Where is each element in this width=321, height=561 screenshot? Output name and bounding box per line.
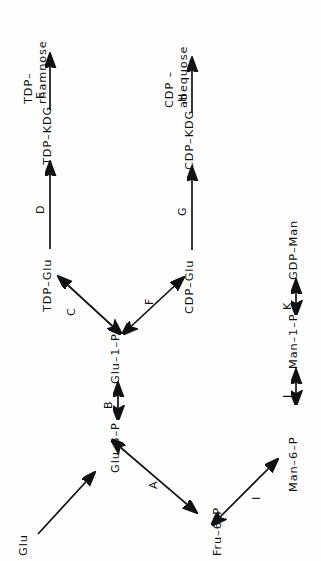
node-tdp-rhamnose-line1: TDP– bbox=[22, 72, 35, 104]
arrow-glu1p-to-tdpglu bbox=[59, 277, 120, 333]
node-cdp-kdg: CDP–KDG bbox=[184, 110, 195, 170]
node-man-6-p: Man–6–P bbox=[288, 437, 299, 492]
node-tdp-rhamnose: TDP– rhamnose bbox=[22, 12, 51, 104]
node-tdp-kdg: TDP–KDG bbox=[42, 106, 53, 165]
edge-label-c: C bbox=[65, 308, 78, 316]
edge-label-e: E bbox=[34, 92, 47, 99]
node-tdp-glu: TDP–Glu bbox=[42, 259, 53, 312]
node-cdp-glu: CDP–Glu bbox=[184, 260, 195, 314]
node-glu-1-p: Glu–1–P bbox=[110, 333, 121, 384]
edge-label-h: H bbox=[176, 93, 189, 102]
edge-label-d: D bbox=[34, 205, 47, 214]
node-glu: Glu bbox=[18, 534, 29, 556]
arrow-glu1p-to-cdpglu bbox=[124, 278, 183, 333]
node-man-1-p: Man–1–P bbox=[288, 314, 299, 369]
edge-label-b: B bbox=[102, 401, 115, 409]
node-fru-6-p: Fru–6–P bbox=[212, 507, 223, 556]
edge-label-g: G bbox=[176, 207, 189, 216]
pathway-diagram-canvas: Glu Glu–6–P Glu–1–P TDP–Glu TDP–KDG TDP–… bbox=[0, 0, 321, 561]
edge-label-k: K bbox=[281, 302, 294, 310]
edge-label-a: A bbox=[147, 481, 160, 489]
node-gdp-man: GDP–Man bbox=[288, 220, 299, 280]
edge-label-j: J bbox=[281, 394, 294, 398]
arrow-glu-to-glu6p bbox=[38, 473, 94, 534]
edge-label-i: I bbox=[250, 496, 263, 500]
node-glu-6-p: Glu–6–P bbox=[110, 422, 121, 473]
edge-label-f: F bbox=[143, 298, 156, 305]
arrow-glu6p-to-fru6p bbox=[113, 441, 196, 512]
node-cdp-abequose-line1: CDP – bbox=[163, 71, 176, 108]
